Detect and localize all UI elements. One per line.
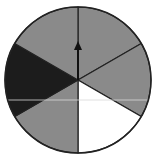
spinner-diagram — [0, 0, 154, 159]
